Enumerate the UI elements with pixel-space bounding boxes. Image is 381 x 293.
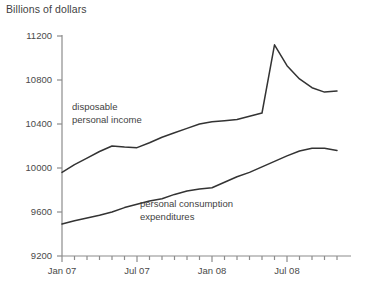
- x-axis-tick-label: Jan 07: [32, 265, 92, 276]
- y-axis-tick-label: 10800: [8, 74, 52, 85]
- x-axis-tick-label: Jan 08: [182, 265, 242, 276]
- chart-container: Billions of dollars 92009600100001040010…: [0, 0, 381, 293]
- series-label-line1: personal consumption: [140, 198, 233, 211]
- y-axis-tick-label: 10400: [8, 118, 52, 129]
- x-axis-tick-label: Jul 08: [257, 265, 317, 276]
- series-label-line2: personal income: [72, 114, 142, 127]
- y-axis-tick-label: 9200: [8, 250, 52, 261]
- y-axis-tick-label: 11200: [8, 30, 52, 41]
- axes-group: [57, 35, 351, 262]
- series-label-disposable-personal-income: disposable personal income: [72, 101, 142, 126]
- y-axis-tick-label: 10000: [8, 162, 52, 173]
- series-label-line2: expenditures: [140, 211, 233, 224]
- series-label-personal-consumption-expenditures: personal consumption expenditures: [140, 198, 233, 223]
- y-axis-tick-label: 9600: [8, 206, 52, 217]
- chart-plot-area: [0, 0, 381, 293]
- x-axis-tick-label: Jul 07: [107, 265, 167, 276]
- series-label-line1: disposable: [72, 101, 142, 114]
